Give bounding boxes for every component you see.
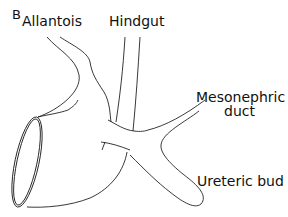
mesonephric-duct-lower-ureteric-bud: [130, 111, 203, 206]
body-lower-contour: [27, 152, 127, 207]
inner-fold: [101, 142, 130, 150]
label-mesonephric: Mesonephric: [196, 90, 285, 104]
label-ureteric-bud: Ureteric bud: [197, 174, 284, 188]
cut-end-inner: [8, 117, 46, 207]
label-duct: duct: [224, 104, 255, 118]
allantois-left-wall: [38, 37, 79, 117]
hindgut-right-wall: [133, 37, 140, 131]
label-allantois: Allantois: [22, 14, 82, 28]
inner-fold-tick: [102, 142, 105, 150]
label-hindgut: Hindgut: [109, 14, 164, 28]
allantois-right-wall: [60, 37, 111, 122]
junction-base: [108, 120, 148, 131]
hindgut-left-wall: [116, 37, 125, 122]
panel-label: B: [12, 8, 21, 21]
